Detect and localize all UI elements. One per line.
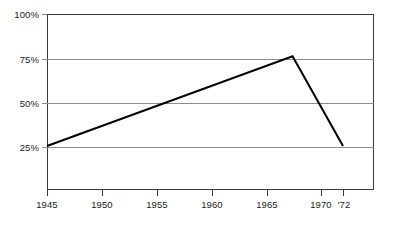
gridline-25 (47, 147, 374, 148)
y-tick-25 (42, 147, 47, 148)
y-axis-label-100: 100% (0, 10, 39, 20)
x-tick-1965 (267, 190, 268, 196)
gridline-50 (47, 103, 374, 104)
x-axis-label-1950: 1950 (72, 200, 132, 210)
x-tick-1955 (157, 190, 158, 196)
y-axis-label-25: 25% (0, 143, 39, 153)
x-axis-label-1960: 1960 (182, 200, 242, 210)
y-axis-label-50: 50% (0, 99, 39, 109)
gridline-75 (47, 59, 374, 60)
line-chart: 100% 75% 50% 25% 1945 1950 1955 1960 196… (0, 0, 393, 225)
x-tick-1972 (343, 190, 344, 196)
x-tick-1970 (321, 190, 322, 196)
plot-area-frame (47, 14, 374, 190)
y-tick-100 (42, 14, 47, 15)
y-tick-50 (42, 103, 47, 104)
x-axis-label-1965: 1965 (237, 200, 297, 210)
y-tick-75 (42, 59, 47, 60)
x-axis-label-1955: 1955 (127, 200, 187, 210)
y-axis-label-75: 75% (0, 55, 39, 65)
x-tick-1945 (47, 190, 48, 196)
x-axis-label-1945: 1945 (17, 200, 77, 210)
x-tick-1960 (212, 190, 213, 196)
x-tick-1950 (102, 190, 103, 196)
x-axis-label-1972: '72 (314, 200, 374, 210)
